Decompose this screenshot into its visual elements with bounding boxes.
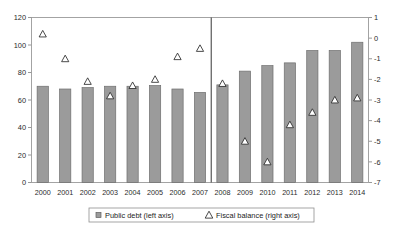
bar-public-debt	[194, 92, 205, 182]
year-label: 2006	[170, 188, 186, 197]
marker-fiscal-balance	[62, 55, 69, 62]
bar-public-debt	[217, 85, 228, 183]
year-label: 2012	[304, 188, 320, 197]
right-tick-label: -4	[374, 116, 381, 125]
legend-square-icon	[96, 213, 101, 218]
year-label: 2002	[80, 188, 96, 197]
legend-label-public-debt: Public debt (left axis)	[105, 211, 174, 220]
year-label: 2000	[35, 188, 51, 197]
chart-canvas: 020406080100120 10-1-2-3-4-5-6-7 2000200…	[0, 0, 403, 236]
marker-fiscal-balance	[129, 82, 136, 89]
bar-public-debt	[352, 42, 363, 182]
left-tick-label: 60	[18, 96, 26, 105]
marker-fiscal-balance	[39, 30, 46, 37]
year-label: 2013	[327, 188, 343, 197]
year-label: 2010	[259, 188, 275, 197]
right-tick-label: -1	[374, 54, 381, 63]
right-tick-label: -6	[374, 158, 381, 167]
left-tick-label: 100	[14, 41, 26, 50]
bar-public-debt	[329, 51, 340, 183]
right-tick-label: -5	[374, 137, 381, 146]
right-axis-ticks: 10-1-2-3-4-5-6-7	[369, 13, 381, 187]
legend-label-fiscal-balance: Fiscal balance (right axis)	[216, 211, 300, 220]
fiscal-chart: 020406080100120 10-1-2-3-4-5-6-7 2000200…	[0, 0, 403, 236]
bar-public-debt	[239, 71, 250, 182]
marker-fiscal-balance	[196, 45, 203, 52]
bar-public-debt	[82, 88, 93, 183]
year-label: 2008	[214, 188, 230, 197]
bar-public-debt	[37, 86, 48, 182]
bar-public-debt	[307, 51, 318, 183]
right-tick-label: 0	[374, 34, 378, 43]
right-tick-label: -2	[374, 75, 381, 84]
right-tick-label: -7	[374, 178, 381, 187]
left-tick-label: 20	[18, 151, 26, 160]
left-tick-label: 80	[18, 68, 26, 77]
marker-fiscal-balance	[174, 53, 181, 60]
left-tick-label: 120	[14, 13, 26, 22]
right-tick-label: 1	[374, 13, 378, 22]
marker-fiscal-balance	[151, 76, 158, 83]
year-label: 2007	[192, 188, 208, 197]
bar-public-debt	[60, 89, 71, 183]
year-label: 2003	[102, 188, 118, 197]
right-tick-label: -3	[374, 96, 381, 105]
year-label: 2004	[125, 188, 141, 197]
left-axis-ticks: 020406080100120	[14, 13, 32, 187]
marker-fiscal-balance	[219, 80, 226, 87]
year-label: 2014	[349, 188, 365, 197]
bar-public-debt	[105, 86, 116, 182]
bar-public-debt	[149, 86, 160, 183]
chart-legend: Public debt (left axis)Fiscal balance (r…	[89, 208, 314, 222]
left-tick-label: 0	[22, 178, 26, 187]
year-label: 2001	[57, 188, 73, 197]
year-label: 2009	[237, 188, 253, 197]
x-axis-year-labels: 2000200120022003200420052006200720082009…	[35, 188, 366, 197]
bar-public-debt	[127, 86, 138, 182]
year-label: 2005	[147, 188, 163, 197]
year-label: 2011	[282, 188, 297, 197]
bar-public-debt	[172, 89, 183, 183]
left-tick-label: 40	[18, 123, 26, 132]
marker-fiscal-balance	[84, 78, 91, 85]
